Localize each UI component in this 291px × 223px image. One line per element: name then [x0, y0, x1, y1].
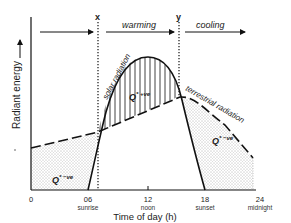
radiation-diagram: x y warming cooling solar radiation terr…: [0, 0, 291, 223]
x-axis-label: Time of day (h): [113, 211, 177, 222]
x-tick-label-18: 18: [201, 195, 209, 204]
stray-mark: [14, 149, 16, 151]
warming-label: warming: [122, 20, 156, 30]
x-tick-sub-noon: noon: [141, 204, 156, 211]
marker-y-label: y: [176, 12, 181, 22]
x-tick-sub-sunrise: sunrise: [78, 204, 99, 211]
solar-radiation-label: solar radiation: [101, 52, 133, 101]
marker-x-label: x: [95, 12, 100, 22]
x-tick-label-24: 24: [256, 195, 264, 204]
cooling-label: cooling: [196, 20, 225, 30]
solar-radiation-curve: [88, 57, 205, 190]
x-tick-label-06: 06: [84, 195, 92, 204]
x-tick-label-12: 12: [144, 195, 152, 204]
y-axis-label: Radiant energy: [11, 61, 22, 129]
x-tick-sub-sunset: sunset: [195, 204, 214, 211]
x-tick-sub-midnight: midnight: [248, 204, 273, 212]
x-tick-label-0: 0: [29, 195, 33, 204]
